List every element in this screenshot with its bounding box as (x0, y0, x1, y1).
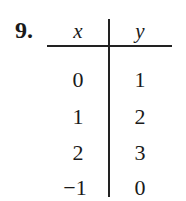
problem-number: 9. (15, 18, 33, 42)
cell-y-3: 0 (115, 176, 165, 200)
cell-x-3: −1 (50, 176, 100, 200)
cell-y-2: 3 (115, 141, 165, 165)
cell-x-2: 2 (53, 141, 103, 165)
cell-x-1: 1 (53, 105, 103, 129)
header-x: x (58, 20, 98, 42)
cell-x-0: 0 (53, 68, 103, 92)
cell-y-0: 1 (115, 68, 165, 92)
column-divider (108, 19, 110, 197)
cell-y-1: 2 (115, 105, 165, 129)
header-y: y (120, 20, 160, 42)
